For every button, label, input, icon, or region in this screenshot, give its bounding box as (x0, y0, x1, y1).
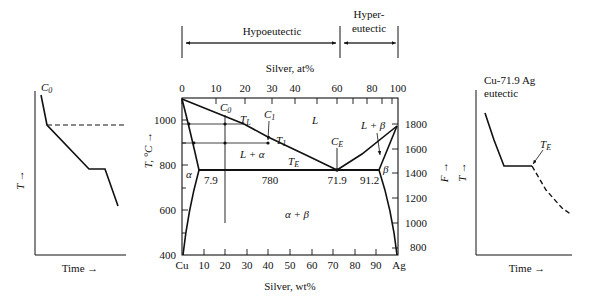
top-axis-title: Silver, at% (266, 62, 314, 74)
svg-text:800: 800 (160, 159, 177, 171)
svg-text:1000: 1000 (405, 217, 428, 229)
svg-text:Cu: Cu (176, 259, 189, 271)
svg-text:CE: CE (331, 135, 343, 149)
bottom-axis-title: Silver, wt% (264, 280, 316, 292)
l-beta-arrow (377, 133, 380, 155)
svg-text:C1: C1 (264, 108, 275, 122)
svg-text:30: 30 (242, 259, 254, 271)
svg-text:30: 30 (267, 82, 279, 94)
svg-text:780: 780 (262, 174, 279, 186)
bottom-axis-tick-labels: Cu 10 20 30 40 50 60 70 80 90 Ag (176, 259, 407, 271)
svg-text:70: 70 (328, 259, 340, 271)
svg-text:TE: TE (288, 155, 299, 169)
left-curve-c0-label: C0 (41, 81, 52, 95)
svg-text:1000: 1000 (154, 114, 177, 126)
right-curve-x-label: Time → (509, 262, 546, 274)
svg-text:1400: 1400 (405, 167, 428, 179)
top-axis-tick-labels: 0 10 20 30 40 60 80 100 (179, 82, 407, 94)
hypoeutectic-label: Hypoeutectic (243, 25, 302, 37)
left-cooling-line (41, 95, 118, 206)
te-arrow (533, 150, 543, 164)
svg-text:1200: 1200 (405, 192, 428, 204)
svg-text:T1: T1 (276, 134, 286, 148)
svg-text:10: 10 (199, 259, 211, 271)
svg-text:1600: 1600 (405, 143, 428, 155)
solvus-alpha (183, 170, 199, 255)
bottom-axis-ticks (204, 249, 376, 255)
right-axis-title: F → (438, 162, 450, 183)
right-curve-title-line2: eutectic (484, 87, 518, 99)
svg-text:40: 40 (263, 259, 275, 271)
svg-text:80: 80 (367, 82, 379, 94)
svg-text:400: 400 (160, 249, 177, 261)
svg-text:TL: TL (240, 113, 251, 127)
svg-text:90: 90 (371, 259, 383, 271)
phase-diagram: Silver, at% 0 10 20 30 40 60 80 100 Cu 1… (142, 62, 450, 292)
right-axis-tick-labels: 1800 1600 1400 1200 1000 800 (405, 118, 428, 253)
diagram-labels: C0 TL C1 T1 TE CE L L + α L + β α β α + … (186, 101, 389, 220)
svg-text:0: 0 (179, 82, 185, 94)
right-curve-title-line1: Cu-71.9 Ag (484, 74, 536, 86)
svg-text:60: 60 (307, 259, 319, 271)
solvus-beta (379, 170, 397, 255)
svg-text:600: 600 (160, 204, 177, 216)
left-curve-x-label: Time → (62, 262, 99, 274)
svg-text:C0: C0 (220, 101, 231, 115)
svg-text:91.2: 91.2 (360, 174, 379, 186)
left-axis-title: T, °C → (142, 132, 154, 168)
svg-text:L + β: L + β (360, 119, 386, 131)
solidus-alpha (182, 99, 199, 170)
svg-text:20: 20 (220, 259, 232, 271)
hypereutectic-label-line1: Hyper- (354, 8, 385, 20)
svg-text:100: 100 (390, 82, 407, 94)
svg-text:71.9: 71.9 (327, 174, 347, 186)
right-cooling-curve: Cu-71.9 Ag eutectic TE T → Time → (456, 74, 572, 274)
left-cooling-curve: C0 T → Time → (14, 81, 126, 274)
svg-text:50: 50 (285, 259, 297, 271)
left-axis-tick-labels: 1000 800 600 400 (154, 114, 177, 261)
svg-text:20: 20 (240, 82, 252, 94)
cu-ag-phase-diagram-figure: Hypoeutectic Hyper- eutectic C0 T → Time… (0, 0, 593, 303)
top-axis-ticks (182, 98, 392, 104)
svg-text:β: β (382, 163, 389, 175)
svg-text:60: 60 (332, 82, 344, 94)
hypereutectic-label-line2: eutectic (352, 22, 386, 34)
svg-text:Ag: Ag (392, 259, 406, 271)
svg-text:800: 800 (410, 241, 427, 253)
svg-text:80: 80 (350, 259, 362, 271)
right-curve-te-label: TE (540, 138, 551, 152)
left-curve-y-label: T → (14, 170, 26, 190)
svg-text:10: 10 (211, 82, 223, 94)
right-cooling-dash (532, 166, 572, 215)
svg-text:α: α (186, 168, 192, 180)
svg-text:α + β: α + β (285, 208, 310, 220)
svg-text:L: L (311, 114, 318, 126)
svg-text:40: 40 (290, 82, 302, 94)
svg-text:L + α: L + α (239, 148, 265, 160)
right-cooling-line (485, 113, 532, 166)
svg-text:1800: 1800 (405, 118, 428, 130)
eutectic-range-header: Hypoeutectic Hyper- eutectic (182, 8, 398, 58)
svg-text:7.9: 7.9 (204, 174, 218, 186)
right-curve-y-label: T → (456, 162, 468, 182)
